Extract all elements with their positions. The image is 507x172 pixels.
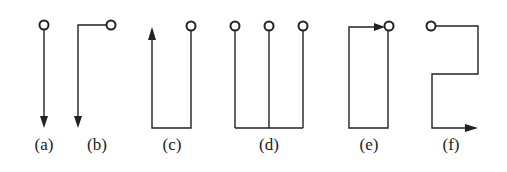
terminal-node [265,22,274,31]
terminal-node [40,21,49,30]
panel-f: (f) [427,22,479,155]
panel-a: (a) [35,21,54,155]
line [78,25,106,120]
panel-e: (e) [349,22,394,155]
arrow-right-icon [465,124,478,132]
arrow-down-icon [40,116,48,128]
panel-b: (b) [74,21,116,155]
terminal-node [231,22,240,31]
panel-d: (d) [231,22,308,155]
arrow-right-icon [374,23,385,31]
panel-label: (d) [259,135,279,154]
terminal-node [187,22,196,31]
arrow-up-icon [148,27,156,40]
panel-label: (e) [360,135,379,154]
line [152,30,191,128]
terminal-node [107,21,116,30]
terminal-node [385,22,394,31]
panel-label: (f) [443,135,460,154]
terminal-node [427,22,436,31]
terminal-node [299,22,308,31]
line [432,26,478,128]
panel-label: (a) [35,135,54,154]
panel-label: (b) [87,135,107,154]
panel-label: (c) [163,135,182,154]
line [349,27,388,128]
panel-c: (c) [148,22,196,155]
arrow-down-icon [74,116,82,128]
wiring-diagram: (a) (b) (c) (d) (e) (f) [0,0,507,172]
